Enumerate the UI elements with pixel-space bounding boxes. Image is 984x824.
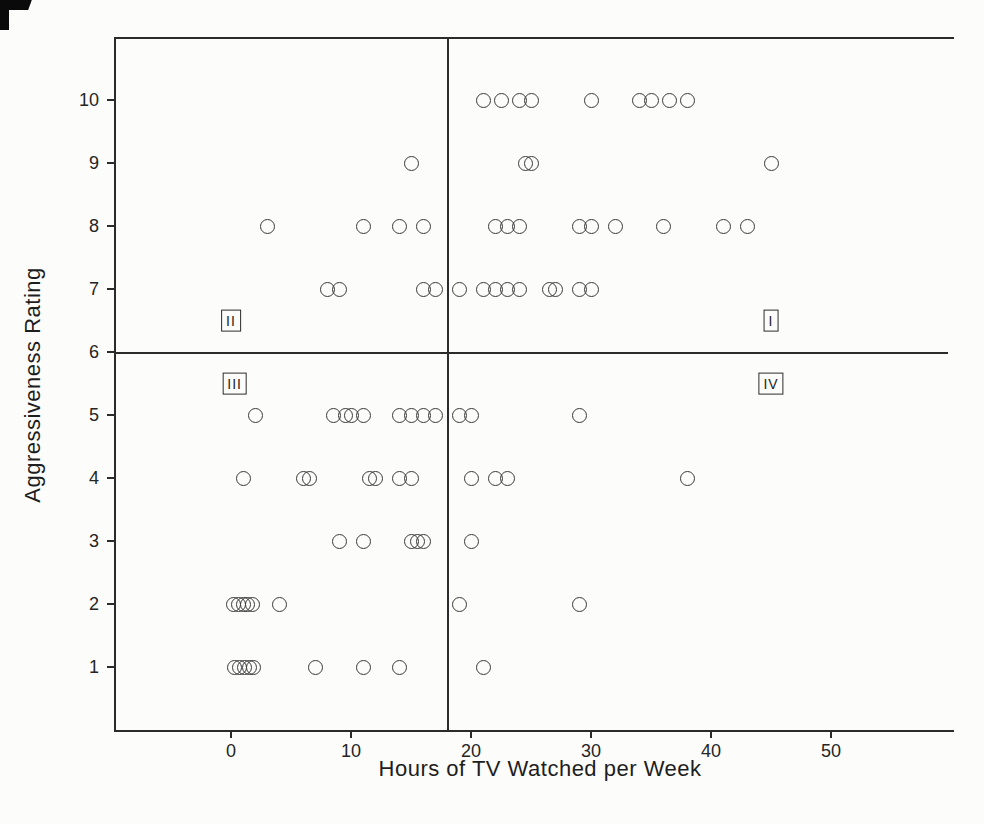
scan-artifact (0, 0, 32, 10)
data-point (245, 597, 260, 612)
y-tick-label: 7 (89, 279, 99, 300)
data-point (584, 219, 599, 234)
y-tick-mark (107, 162, 115, 164)
data-point (392, 219, 407, 234)
data-point (524, 156, 539, 171)
data-point (246, 660, 261, 675)
x-tick-mark (710, 730, 712, 738)
y-tick-mark (107, 477, 115, 479)
data-point (608, 219, 623, 234)
data-point (572, 597, 587, 612)
data-point (680, 471, 695, 486)
y-tick-label: 4 (89, 468, 99, 489)
x-tick-mark (470, 730, 472, 738)
data-point (332, 282, 347, 297)
data-point (272, 597, 287, 612)
x-tick-mark (350, 730, 352, 738)
scatter-plot-figure: 01020304050 12345678910 IIIIIIIV Hours o… (0, 0, 984, 824)
y-axis-title: Aggressiveness Rating (20, 267, 46, 503)
data-point (656, 219, 671, 234)
x-tick-label: 0 (226, 741, 236, 762)
data-point (392, 660, 407, 675)
y-tick-mark (107, 288, 115, 290)
data-point (308, 660, 323, 675)
data-point (356, 219, 371, 234)
data-point (260, 219, 275, 234)
x-axis-line (114, 730, 954, 732)
data-point (494, 93, 509, 108)
data-point (716, 219, 731, 234)
x-tick-label: 40 (701, 741, 721, 762)
plot-top-border (114, 37, 954, 39)
data-point (476, 93, 491, 108)
y-tick-mark (107, 666, 115, 668)
quadrant-label-iv: IV (758, 372, 783, 395)
y-tick-mark (107, 225, 115, 227)
y-axis-line (114, 37, 116, 732)
data-point (512, 282, 527, 297)
data-point (662, 93, 677, 108)
data-point (584, 282, 599, 297)
data-point (452, 282, 467, 297)
data-point (416, 219, 431, 234)
quadrant-label-ii: II (221, 309, 241, 332)
quadrant-label-i: I (764, 309, 779, 332)
x-tick-mark (830, 730, 832, 738)
y-tick-mark (107, 414, 115, 416)
data-point (464, 471, 479, 486)
data-point (464, 408, 479, 423)
data-point (404, 156, 419, 171)
y-tick-label: 3 (89, 531, 99, 552)
horizontal-divider-line (115, 352, 948, 354)
data-point (548, 282, 563, 297)
y-tick-label: 9 (89, 153, 99, 174)
y-tick-label: 2 (89, 594, 99, 615)
data-point (428, 282, 443, 297)
data-point (584, 93, 599, 108)
x-tick-label: 10 (341, 741, 361, 762)
x-axis-title: Hours of TV Watched per Week (379, 756, 702, 782)
data-point (332, 534, 347, 549)
data-point (356, 660, 371, 675)
data-point (524, 93, 539, 108)
y-tick-mark (107, 99, 115, 101)
data-point (428, 408, 443, 423)
x-tick-label: 50 (821, 741, 841, 762)
y-tick-label: 1 (89, 657, 99, 678)
data-point (644, 93, 659, 108)
data-point (236, 471, 251, 486)
y-tick-mark (107, 540, 115, 542)
y-tick-label: 10 (79, 90, 99, 111)
data-point (356, 408, 371, 423)
data-point (368, 471, 383, 486)
data-point (476, 660, 491, 675)
y-tick-label: 8 (89, 216, 99, 237)
data-point (404, 471, 419, 486)
y-tick-mark (107, 603, 115, 605)
data-point (572, 408, 587, 423)
data-point (416, 534, 431, 549)
data-point (356, 534, 371, 549)
y-tick-label: 6 (89, 342, 99, 363)
data-point (680, 93, 695, 108)
data-point (512, 219, 527, 234)
data-point (464, 534, 479, 549)
x-tick-mark (590, 730, 592, 738)
data-point (452, 597, 467, 612)
vertical-divider-line (447, 37, 449, 730)
quadrant-label-iii: III (222, 372, 247, 395)
x-tick-mark (230, 730, 232, 738)
data-point (764, 156, 779, 171)
data-point (740, 219, 755, 234)
y-tick-label: 5 (89, 405, 99, 426)
data-point (500, 471, 515, 486)
data-point (302, 471, 317, 486)
y-tick-mark (107, 351, 115, 353)
data-point (248, 408, 263, 423)
